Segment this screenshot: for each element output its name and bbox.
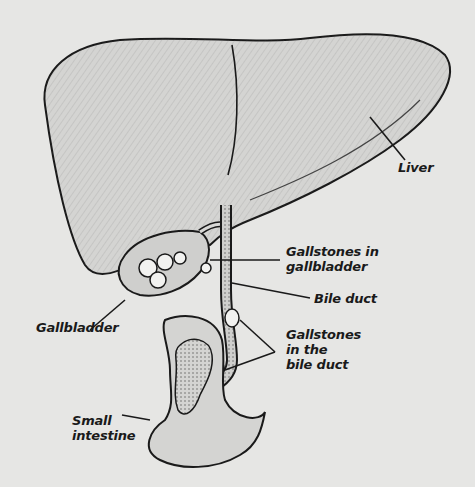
anatomy-diagram: Liver Gallstones in gallbladder Bile duc… xyxy=(0,0,475,487)
gallstone xyxy=(157,254,173,270)
label-gallstones-in-gallbladder: Gallstones in gallbladder xyxy=(286,244,379,274)
small-intestine-shape xyxy=(149,316,265,467)
label-bile-duct: Bile duct xyxy=(314,291,377,306)
gallstone xyxy=(201,263,211,273)
liver-shape xyxy=(44,34,450,274)
gallstone xyxy=(174,252,186,264)
label-gallstones-in-bile-duct: Gallstones in the bile duct xyxy=(286,327,361,372)
label-liver: Liver xyxy=(398,160,433,175)
gallstone xyxy=(150,272,166,288)
label-gallbladder: Gallbladder xyxy=(36,320,119,335)
gallstone xyxy=(225,309,239,327)
label-small-intestine: Small intestine xyxy=(72,413,135,443)
